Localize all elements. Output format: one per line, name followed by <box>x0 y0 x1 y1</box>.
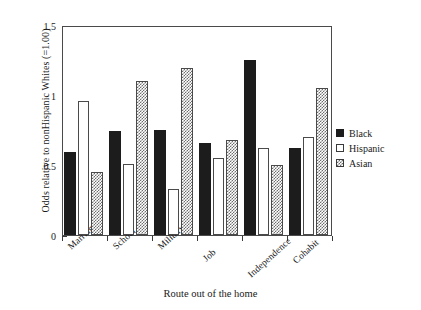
bar-black-cohabit <box>289 148 301 235</box>
legend-swatch-icon <box>336 159 344 167</box>
plot-area <box>62 26 332 236</box>
chart-figure: Odds relative to nonHispanic Whites (=1.… <box>0 0 421 310</box>
y-tick-label: 0.5 <box>30 161 56 172</box>
x-tick-label-cohabit: Cohabit <box>291 237 321 265</box>
bar-group <box>198 27 243 235</box>
bar-group <box>153 27 198 235</box>
legend-label: Asian <box>349 158 372 169</box>
bar-group <box>63 27 108 235</box>
legend-item-hispanic: Hispanic <box>336 141 420 155</box>
bar-asian-cohabit <box>316 88 328 235</box>
bar-hispanic-cohabit <box>303 137 315 235</box>
bar-hispanic-school <box>123 164 135 235</box>
y-tick-label: 1.5 <box>30 21 56 32</box>
legend: BlackHispanicAsian <box>336 126 420 171</box>
y-tick-label: 1 <box>30 91 56 102</box>
x-tick-label-independence: Independence <box>246 236 293 280</box>
x-tick-mark <box>152 236 153 241</box>
y-tick-label: 0 <box>30 231 56 242</box>
bar-asian-school <box>136 81 148 235</box>
bar-hispanic-marriage <box>78 101 90 235</box>
bar-hispanic-military <box>168 189 180 235</box>
bar-series-container <box>63 27 331 235</box>
x-axis-title: Route out of the home <box>0 288 421 299</box>
x-tick-label-job: Job <box>201 247 218 263</box>
bar-hispanic-independence <box>258 148 270 235</box>
bar-group <box>243 27 288 235</box>
bar-black-job <box>199 143 211 235</box>
x-tick-mark <box>242 236 243 241</box>
legend-label: Black <box>349 128 372 139</box>
legend-item-asian: Asian <box>336 156 420 170</box>
bar-group <box>288 27 333 235</box>
legend-swatch-icon <box>336 129 344 137</box>
y-axis-tick-labels: 00.511.5 <box>28 0 56 310</box>
legend-item-black: Black <box>336 126 420 140</box>
bar-asian-marriage <box>91 172 103 235</box>
x-tick-mark <box>62 236 63 241</box>
bar-black-military <box>154 130 166 235</box>
legend-swatch-icon <box>336 144 344 152</box>
x-tick-mark <box>197 236 198 241</box>
x-tick-mark <box>332 236 333 241</box>
bar-black-school <box>109 131 121 235</box>
x-tick-mark <box>107 236 108 241</box>
bar-asian-job <box>226 140 238 235</box>
bar-asian-military <box>181 68 193 235</box>
bar-black-independence <box>244 60 256 235</box>
bar-group <box>108 27 153 235</box>
bar-asian-independence <box>271 165 283 235</box>
bar-black-marriage <box>64 152 76 235</box>
bar-hispanic-job <box>213 158 225 235</box>
legend-label: Hispanic <box>349 143 385 154</box>
